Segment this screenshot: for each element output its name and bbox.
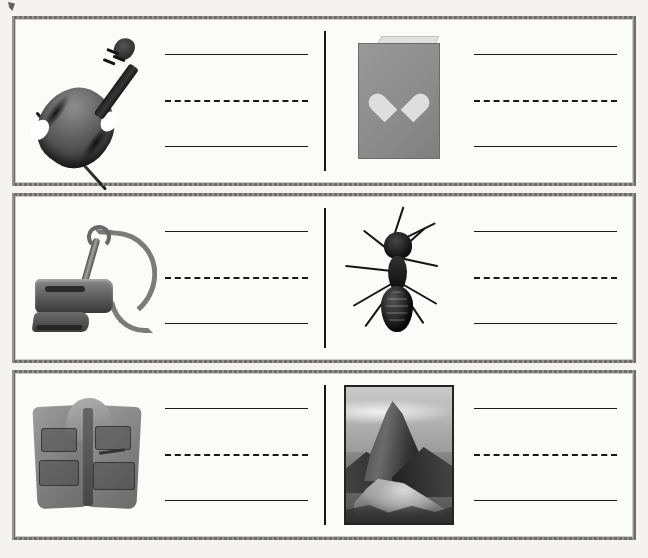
handwriting-rules[interactable] bbox=[165, 48, 308, 154]
rule-line-middle-dashed bbox=[474, 454, 617, 456]
worksheet-cell-card[interactable] bbox=[324, 19, 633, 183]
picture-slot bbox=[324, 19, 474, 183]
violin-photo bbox=[28, 29, 153, 173]
ant-thorax-icon bbox=[388, 256, 407, 290]
violin-neck-icon bbox=[94, 63, 139, 120]
handwriting-rules[interactable] bbox=[474, 402, 617, 508]
picture-slot bbox=[324, 196, 474, 360]
rule-line-top bbox=[474, 231, 617, 232]
vest-pocket bbox=[39, 460, 79, 486]
rule-line-bottom bbox=[165, 323, 308, 324]
rule-line-top bbox=[165, 231, 308, 232]
mountain-photo bbox=[344, 385, 454, 525]
violin-peg bbox=[103, 58, 116, 66]
picture-slot bbox=[15, 196, 165, 360]
vacuum-cleaner-photo bbox=[27, 213, 153, 343]
rule-line-bottom bbox=[474, 500, 617, 501]
rule-line-top bbox=[165, 408, 308, 409]
ant-leg bbox=[345, 265, 393, 272]
worksheet-row bbox=[12, 370, 636, 540]
handwriting-rules[interactable] bbox=[165, 225, 308, 331]
picture-slot bbox=[324, 373, 474, 537]
greeting-card-photo bbox=[358, 43, 440, 159]
rule-line-bottom bbox=[474, 146, 617, 147]
rule-line-middle-dashed bbox=[165, 277, 308, 279]
worksheet-cell-vacuum[interactable] bbox=[15, 196, 324, 360]
worksheet-cell-ant[interactable] bbox=[324, 196, 633, 360]
rule-line-top bbox=[474, 408, 617, 409]
rule-line-bottom bbox=[165, 146, 308, 147]
rule-line-middle-dashed bbox=[165, 100, 308, 102]
vest-pocket bbox=[95, 426, 131, 450]
vest-placket bbox=[83, 408, 93, 506]
worksheet-sheet bbox=[12, 16, 636, 540]
picture-slot bbox=[15, 19, 165, 183]
ant-abdomen-icon bbox=[381, 286, 413, 332]
worksheet-cell-mountain[interactable] bbox=[324, 373, 633, 537]
vacuum-canister-icon bbox=[35, 279, 113, 313]
vacuum-hose-lower bbox=[109, 297, 153, 333]
rule-line-bottom bbox=[474, 323, 617, 324]
rule-line-bottom bbox=[165, 500, 308, 501]
worksheet-cell-violin[interactable] bbox=[15, 19, 324, 183]
worksheet-row bbox=[12, 193, 636, 363]
scan-artifact-speck bbox=[8, 2, 15, 11]
vacuum-floor-head-icon bbox=[32, 312, 91, 332]
vest-pocket bbox=[41, 428, 77, 452]
vest-photo bbox=[29, 394, 151, 516]
rule-line-middle-dashed bbox=[474, 100, 617, 102]
handwriting-rules[interactable] bbox=[474, 225, 617, 331]
worksheet-row bbox=[12, 16, 636, 186]
handwriting-rules[interactable] bbox=[474, 48, 617, 154]
rule-line-top bbox=[165, 54, 308, 55]
ant-photo bbox=[343, 212, 455, 344]
rule-line-middle-dashed bbox=[165, 454, 308, 456]
handwriting-rules[interactable] bbox=[165, 402, 308, 508]
vacuum-handle-icon bbox=[87, 225, 111, 249]
vest-pocket bbox=[93, 462, 135, 490]
worksheet-cell-vest[interactable] bbox=[15, 373, 324, 537]
rule-line-middle-dashed bbox=[474, 277, 617, 279]
ant-head-icon bbox=[384, 232, 412, 259]
rule-line-top bbox=[474, 54, 617, 55]
picture-slot bbox=[15, 373, 165, 537]
card-front-cover bbox=[358, 43, 440, 159]
heart-icon bbox=[382, 88, 416, 119]
